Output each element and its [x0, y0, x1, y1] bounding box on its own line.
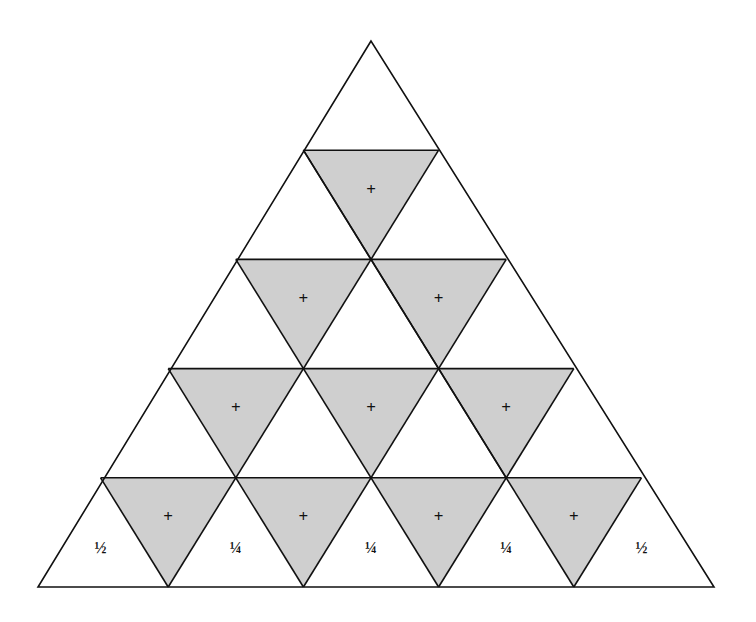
triangle-grid-diagram — [0, 0, 756, 622]
plus-sign: + — [434, 507, 444, 527]
plus-sign: + — [569, 507, 579, 527]
fraction-label: ¼ — [500, 539, 512, 557]
plus-sign: + — [231, 398, 241, 418]
plus-sign: + — [163, 507, 173, 527]
fraction-label: ¼ — [365, 539, 377, 557]
fraction-label: ¼ — [230, 539, 242, 557]
fraction-label: ½ — [95, 539, 107, 557]
plus-sign: + — [299, 507, 309, 527]
plus-sign: + — [366, 398, 376, 418]
plus-sign: + — [366, 180, 376, 200]
fraction-label: ½ — [635, 539, 647, 557]
plus-sign: + — [434, 289, 444, 309]
plus-sign: + — [299, 289, 309, 309]
plus-sign: + — [501, 398, 511, 418]
